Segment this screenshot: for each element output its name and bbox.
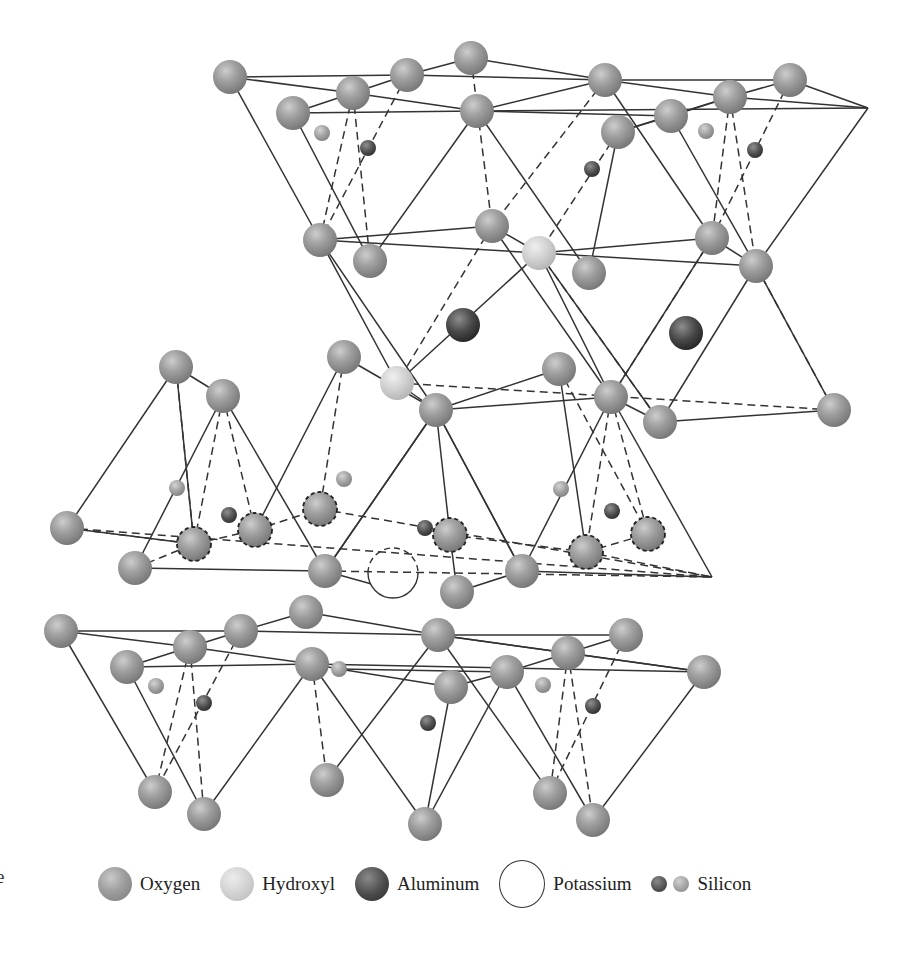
dashed-bond bbox=[190, 647, 204, 814]
oxygen-atom bbox=[817, 393, 851, 427]
oxygen-atom bbox=[551, 636, 585, 670]
dashed-bond bbox=[568, 653, 593, 820]
silicon-dark-atom bbox=[417, 520, 433, 536]
silicon-dark-atom bbox=[221, 507, 237, 523]
solid-bond-layer bbox=[61, 58, 868, 824]
solid-bond bbox=[539, 253, 756, 266]
legend-item-silicon: Silicon bbox=[651, 873, 751, 895]
potassium-circle-icon bbox=[499, 860, 545, 908]
solid-bond bbox=[230, 75, 407, 77]
legend-item-potassium: Potassium bbox=[499, 860, 631, 908]
solid-bond bbox=[425, 687, 451, 824]
silicon-light-atom bbox=[336, 471, 352, 487]
mica-crystal-structure-diagram bbox=[0, 0, 915, 956]
oxygen-dashed-atom bbox=[303, 492, 337, 526]
legend-item-oxygen: Oxygen bbox=[98, 867, 200, 901]
dashed-bond bbox=[730, 97, 756, 266]
dashed-bond-layer bbox=[67, 58, 834, 820]
silicon-light-atom bbox=[314, 125, 330, 141]
oxygen-atom bbox=[206, 379, 240, 413]
oxygen-sphere-icon bbox=[98, 867, 132, 901]
oxygen-atom bbox=[173, 630, 207, 664]
solid-bond bbox=[241, 631, 438, 635]
solid-bond bbox=[559, 369, 586, 552]
solid-bond bbox=[339, 669, 451, 687]
solid-bond bbox=[312, 664, 425, 824]
silicon-dark-atom bbox=[604, 503, 620, 519]
aluminum-atom bbox=[669, 316, 703, 350]
silicon-dark-atom bbox=[584, 161, 600, 177]
solid-bond bbox=[589, 132, 618, 273]
silicon-dark-atom bbox=[196, 695, 212, 711]
oxygen-atom bbox=[419, 393, 453, 427]
solid-bond bbox=[230, 77, 320, 240]
oxygen-atom bbox=[572, 256, 606, 290]
legend-label-hydroxyl: Hydroxyl bbox=[262, 873, 335, 895]
solid-bond bbox=[230, 77, 353, 93]
oxygen-atom bbox=[336, 76, 370, 110]
silicon-light-atom bbox=[148, 678, 164, 694]
silicon-dark-atom bbox=[585, 698, 601, 714]
silicon-light-atom bbox=[553, 481, 569, 497]
oxygen-atom bbox=[440, 575, 474, 609]
solid-bond bbox=[477, 111, 671, 116]
hydroxyl-atom bbox=[522, 236, 556, 270]
oxygen-dashed-atom bbox=[177, 527, 211, 561]
solid-bond bbox=[320, 226, 492, 240]
solid-bond bbox=[436, 410, 450, 535]
silicon-dark-atom bbox=[360, 140, 376, 156]
oxygen-atom bbox=[601, 115, 635, 149]
potassium-atom-back bbox=[368, 548, 418, 573]
oxygen-atom bbox=[213, 60, 247, 94]
oxygen-atom bbox=[289, 595, 323, 629]
oxygen-atom bbox=[421, 618, 455, 652]
oxygen-atom bbox=[695, 221, 729, 255]
oxygen-atom bbox=[713, 80, 747, 114]
oxygen-atom bbox=[454, 41, 488, 75]
oxygen-atom bbox=[224, 614, 258, 648]
solid-bond bbox=[730, 97, 868, 108]
cropped-text-fragment: e bbox=[0, 866, 4, 888]
oxygen-atom bbox=[505, 554, 539, 588]
atom-layer bbox=[44, 41, 851, 841]
oxygen-atom bbox=[609, 618, 643, 652]
legend-item-aluminum: Aluminum bbox=[355, 867, 479, 901]
hydroxyl-sphere-icon bbox=[220, 867, 254, 901]
silicon-light-atom bbox=[169, 480, 185, 496]
oxygen-atom bbox=[44, 614, 78, 648]
oxygen-atom bbox=[576, 803, 610, 837]
legend: Oxygen Hydroxyl Aluminum Potassium Silic… bbox=[98, 862, 771, 906]
silicon-sphere-dark-icon bbox=[651, 876, 667, 892]
oxygen-dashed-atom bbox=[238, 513, 272, 547]
oxygen-atom bbox=[594, 380, 628, 414]
oxygen-atom bbox=[643, 405, 677, 439]
solid-bond bbox=[127, 664, 312, 667]
oxygen-atom bbox=[654, 99, 688, 133]
oxygen-atom bbox=[434, 670, 468, 704]
solid-bond bbox=[660, 410, 834, 422]
silicon-sphere-light-icon bbox=[673, 876, 689, 892]
oxygen-atom bbox=[542, 352, 576, 386]
oxygen-atom bbox=[118, 551, 152, 585]
potassium-atom bbox=[368, 573, 418, 598]
dashed-bond bbox=[492, 80, 605, 226]
solid-bond bbox=[327, 635, 438, 780]
solid-bond bbox=[325, 410, 436, 571]
legend-label-oxygen: Oxygen bbox=[140, 873, 200, 895]
solid-bond bbox=[67, 367, 176, 528]
solid-bond bbox=[306, 612, 438, 635]
solid-bond bbox=[611, 238, 712, 397]
silicon-light-atom bbox=[331, 661, 347, 677]
dashed-bond bbox=[155, 647, 190, 792]
solid-bond bbox=[436, 369, 559, 410]
oxygen-dashed-atom bbox=[631, 517, 665, 551]
solid-bond bbox=[605, 80, 730, 97]
oxygen-atom bbox=[588, 63, 622, 97]
oxygen-atom bbox=[110, 650, 144, 684]
legend-label-potassium: Potassium bbox=[553, 873, 631, 895]
hydroxyl-atom bbox=[380, 366, 414, 400]
oxygen-atom bbox=[739, 249, 773, 283]
oxygen-atom bbox=[187, 797, 221, 831]
oxygen-atom bbox=[490, 655, 524, 689]
oxygen-atom bbox=[308, 554, 342, 588]
